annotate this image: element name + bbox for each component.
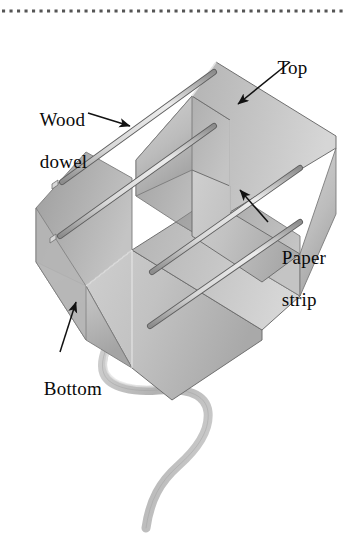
label-bottom: Bottom (24, 357, 102, 420)
label-wood-dowel: Wood dowel (20, 88, 87, 193)
label-wood-dowel-line1: Wood (39, 109, 85, 130)
figure-root: Top Wood dowel Paper strip Bottom (0, 0, 345, 549)
label-paper-strip-line1: Paper (282, 247, 326, 268)
label-wood-dowel-line2: dowel (40, 151, 87, 172)
label-top: Top (258, 36, 307, 99)
label-top-line1: Top (277, 57, 307, 78)
label-paper-strip-line2: strip (282, 289, 317, 310)
label-bottom-line1: Bottom (44, 378, 102, 399)
arrow-wood-dowel (88, 113, 130, 126)
label-paper-strip: Paper strip (262, 226, 326, 331)
